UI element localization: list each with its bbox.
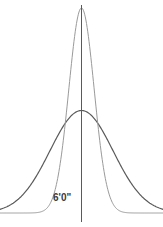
mean-marker-label: 6'0" [53,192,71,204]
distribution-chart: 6'0" [0,0,163,227]
chart-plot-area [0,0,163,227]
